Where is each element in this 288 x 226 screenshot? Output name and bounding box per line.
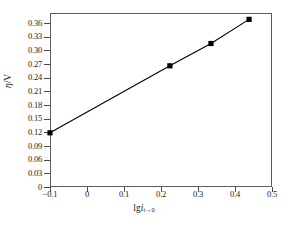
y-tick-label: 0.24: [28, 73, 42, 82]
x-tick-label: 0.4: [230, 190, 240, 199]
data-point-marker: [246, 17, 251, 22]
x-tick-label: 0.2: [156, 190, 166, 199]
y-tick-label: 0.06: [28, 155, 42, 164]
y-axis-unit: /V: [3, 74, 13, 84]
data-series-layer: [50, 13, 272, 187]
y-axis-title: η/V: [3, 74, 13, 88]
data-point-marker: [167, 63, 172, 68]
y-tick-label: 0.36: [28, 19, 42, 28]
y-tick-label: 0.09: [28, 142, 42, 151]
x-tick-label: 0.5: [267, 190, 277, 199]
y-tick-label: 0.12: [28, 128, 42, 137]
data-point-marker: [47, 130, 52, 135]
y-tick-label: 0.33: [28, 32, 42, 41]
y-tick-label: 0.03: [28, 169, 42, 178]
x-tick-label: 0: [85, 190, 89, 199]
x-axis-subscript-arrow: →0: [145, 206, 155, 213]
x-axis-title: lgit→0: [0, 203, 288, 215]
data-point-marker: [208, 41, 213, 46]
y-axis-symbol: η: [3, 83, 13, 88]
y-tick-label: 0.15: [28, 114, 42, 123]
x-tick-label: 0.3: [193, 190, 203, 199]
y-tick-label: 0.21: [28, 87, 42, 96]
y-tick-label: 0: [38, 183, 42, 192]
chart-figure: 00.030.060.090.120.150.180.210.240.270.3…: [0, 0, 288, 226]
y-tick-label: 0.27: [28, 60, 42, 69]
x-tick-label: −0.1: [43, 190, 58, 199]
x-axis-prefix: lg: [133, 203, 140, 213]
x-axis-subscript: t→0: [143, 206, 154, 213]
y-tick-label: 0.30: [28, 46, 42, 55]
series-line: [50, 19, 249, 132]
x-tick-label: 0.1: [119, 190, 129, 199]
y-tick-label: 0.18: [28, 101, 42, 110]
